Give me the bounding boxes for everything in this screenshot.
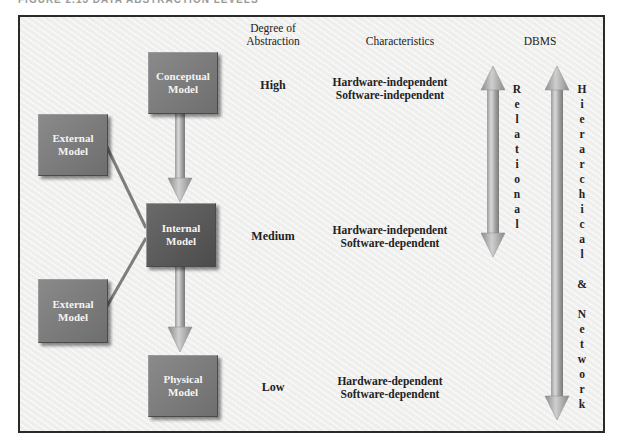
physical-model-box: PhysicalModel [148, 355, 218, 417]
characteristics-high-software: Software-independent [310, 89, 470, 102]
hierarchical_network-letter: r [579, 157, 584, 172]
hierarchical_network-letter: a [579, 232, 585, 247]
characteristics-high: Hardware-independent Software-independen… [310, 76, 470, 102]
relational-letter: t [515, 142, 519, 157]
characteristics-medium: Hardware-independent Software-dependent [310, 224, 470, 250]
connector-external-bottom [106, 238, 146, 308]
relational-letter: a [514, 202, 520, 217]
level-high: High [233, 78, 313, 93]
physical-model-label-1: Physical [163, 373, 202, 386]
hierarchical_network-letter [581, 262, 584, 277]
relational-letter: R [513, 82, 521, 97]
hierarchical_network-letter [581, 292, 584, 307]
external-model-top-label-2: Model [53, 145, 94, 158]
hierarchical_network-letter: & [577, 277, 587, 292]
hierarchical_network-letter: e [579, 322, 584, 337]
arrow-internal-to-physical [168, 265, 192, 352]
external-model-box-bottom: ExternalModel [38, 279, 108, 343]
hierarchical_network-letter: H [578, 82, 587, 97]
hierarchical-network-range-arrow [545, 66, 569, 420]
hierarchical_network-letter: k [579, 397, 585, 412]
level-low: Low [233, 380, 313, 395]
external-model-top-label-1: External [53, 132, 94, 145]
hierarchical_network-letter: i [580, 97, 583, 112]
hierarchical-network-label: Hierarchical & Network [575, 82, 589, 412]
conceptual-model-label-1: Conceptual [156, 70, 210, 83]
hierarchical_network-letter: c [579, 217, 584, 232]
hierarchical_network-letter: t [580, 337, 584, 352]
relational-range-arrow [481, 66, 505, 257]
hierarchical_network-letter: o [579, 367, 585, 382]
relational-letter: l [515, 217, 518, 232]
characteristics-medium-software: Software-dependent [310, 237, 470, 250]
level-medium: Medium [233, 229, 313, 244]
arrow-conceptual-to-internal [168, 112, 192, 202]
hierarchical_network-letter: N [578, 307, 586, 322]
characteristics-high-hardware: Hardware-independent [310, 76, 470, 89]
relational-letter: i [515, 157, 518, 172]
hierarchical_network-letter: c [579, 172, 584, 187]
relational-letter: e [514, 97, 519, 112]
header-abstraction-line1: Degree of [228, 22, 318, 35]
characteristics-medium-hardware: Hardware-independent [310, 224, 470, 237]
external-model-bottom-label-2: Model [53, 311, 94, 324]
relational-letter: n [514, 187, 520, 202]
connector-external-top [106, 145, 146, 228]
characteristics-low-hardware: Hardware-dependent [310, 375, 470, 388]
relational-letter: l [515, 112, 518, 127]
internal-model-box: InternalModel [146, 203, 216, 267]
hierarchical_network-letter: r [579, 382, 584, 397]
characteristics-low-software: Software-dependent [310, 388, 470, 401]
header-dbms: DBMS [500, 35, 580, 48]
hierarchical_network-letter: i [580, 202, 583, 217]
hierarchical_network-letter: h [579, 187, 585, 202]
external-model-bottom-label-1: External [53, 298, 94, 311]
header-abstraction-line2: Abstraction [228, 35, 318, 48]
hierarchical_network-letter: e [579, 112, 584, 127]
hierarchical_network-letter: a [579, 142, 585, 157]
physical-model-label-2: Model [163, 386, 202, 399]
conceptual-model-label-2: Model [156, 83, 210, 96]
internal-model-label-2: Model [162, 235, 201, 248]
conceptual-model-box: ConceptualModel [148, 52, 218, 114]
header-characteristics: Characteristics [330, 35, 470, 48]
hierarchical_network-letter: r [579, 127, 584, 142]
hierarchical_network-letter: w [578, 352, 586, 367]
relational-letter: a [514, 127, 520, 142]
header-abstraction: Degree of Abstraction [228, 22, 318, 48]
internal-model-label-1: Internal [162, 222, 201, 235]
relational-letter: o [514, 172, 520, 187]
relational-label: Relational [510, 82, 524, 232]
hierarchical_network-letter: l [580, 247, 583, 262]
characteristics-low: Hardware-dependent Software-dependent [310, 375, 470, 401]
external-model-box-top: ExternalModel [38, 114, 108, 176]
